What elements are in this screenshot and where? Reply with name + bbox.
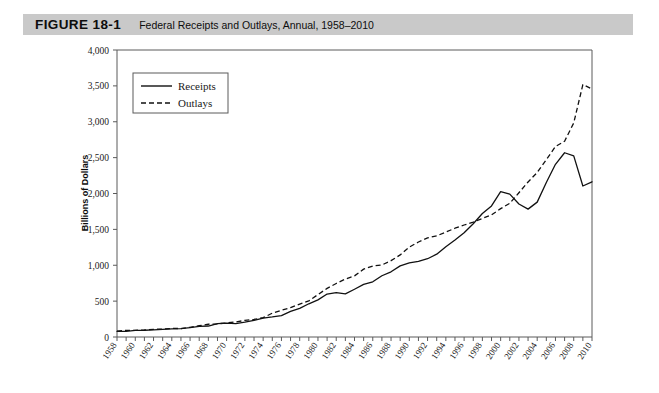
x-tick-label: 2008	[557, 340, 576, 361]
x-tick-label: 1970	[210, 340, 229, 361]
x-tick-label: 1958	[100, 340, 119, 361]
legend-label-receipts: Receipts	[178, 80, 216, 92]
x-tick-label: 2004	[520, 340, 539, 361]
x-tick-label: 1966	[173, 340, 192, 361]
y-axis-title: Billions of Dollars	[80, 155, 90, 232]
x-tick-label: 1984	[338, 340, 357, 361]
figure-container: FIGURE 18-1 Federal Receipts and Outlays…	[0, 0, 659, 393]
x-tick-label: 1996	[447, 340, 466, 361]
series-line-receipts	[117, 153, 592, 332]
x-axis-tick-labels: 1958196019621964196619681970197219741976…	[100, 340, 594, 361]
x-tick-label: 1960	[119, 340, 138, 361]
y-tick-label: 2,500	[88, 153, 110, 163]
x-tick-label: 2010	[575, 340, 594, 361]
x-tick-label: 1986	[356, 340, 375, 361]
series-line-outlays	[117, 85, 592, 332]
x-tick-label: 1992	[411, 341, 429, 362]
y-axis-ticks	[113, 50, 117, 337]
y-axis-tick-labels: 05001,0001,5002,0002,5003,0003,5004,000	[88, 46, 110, 343]
x-tick-label: 1976	[265, 340, 284, 361]
data-series-group	[117, 85, 592, 332]
x-tick-label: 1978	[283, 340, 302, 361]
x-tick-label: 2006	[539, 340, 558, 361]
x-tick-label: 2000	[484, 340, 503, 361]
y-tick-label: 1,000	[88, 261, 110, 271]
line-chart: 05001,0001,5002,0002,5003,0003,5004,000 …	[0, 0, 659, 393]
x-tick-label: 1968	[192, 340, 211, 361]
x-tick-label: 1972	[228, 341, 246, 362]
x-tick-label: 1988	[374, 340, 393, 361]
x-tick-label: 1990	[393, 340, 412, 361]
y-tick-label: 0	[104, 333, 109, 343]
y-tick-label: 4,000	[88, 46, 110, 56]
x-tick-label: 1994	[429, 340, 448, 361]
y-tick-label: 2,000	[88, 189, 110, 199]
x-tick-label: 1982	[320, 341, 338, 362]
x-tick-label: 1974	[246, 340, 265, 361]
x-axis-ticks	[117, 337, 592, 341]
y-tick-label: 3,000	[88, 117, 110, 127]
chart-legend: Receipts Outlays	[133, 73, 228, 113]
y-tick-label: 1,500	[88, 225, 110, 235]
x-tick-label: 1964	[155, 340, 174, 361]
x-tick-label: 2002	[502, 341, 520, 362]
x-tick-label: 1962	[137, 341, 155, 362]
x-tick-label: 1998	[466, 340, 485, 361]
legend-label-outlays: Outlays	[178, 97, 212, 109]
x-tick-label: 1980	[301, 340, 320, 361]
y-tick-label: 500	[95, 297, 110, 307]
y-tick-label: 3,500	[88, 81, 110, 91]
